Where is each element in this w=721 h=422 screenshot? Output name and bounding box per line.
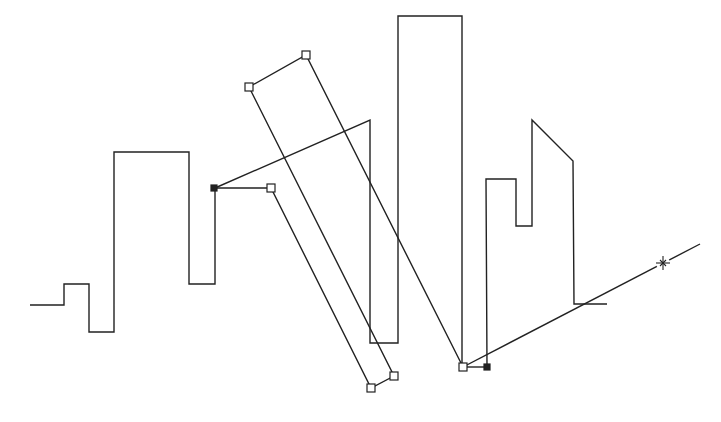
- selected-outline-upper[interactable]: [249, 55, 463, 367]
- grip-mid-left[interactable]: [267, 184, 275, 192]
- grip-bottom-right[interactable]: [390, 372, 398, 380]
- right-buildings-polyline[interactable]: [486, 120, 607, 367]
- grip-handles[interactable]: [211, 51, 490, 392]
- grip-base[interactable]: [459, 363, 467, 371]
- grip-top-right[interactable]: [302, 51, 310, 59]
- skyline-polyline[interactable]: [30, 152, 215, 332]
- anchor-left[interactable]: [211, 185, 217, 191]
- drawing-canvas[interactable]: [0, 0, 721, 422]
- drawing-svg[interactable]: [0, 0, 721, 422]
- connector-polyline[interactable]: [215, 16, 462, 367]
- selected-outline-lower[interactable]: [215, 87, 394, 388]
- grip-top-left[interactable]: [245, 83, 253, 91]
- anchor-right[interactable]: [484, 364, 490, 370]
- grip-bottom-left[interactable]: [367, 384, 375, 392]
- crosshair-star-icon: [656, 256, 670, 270]
